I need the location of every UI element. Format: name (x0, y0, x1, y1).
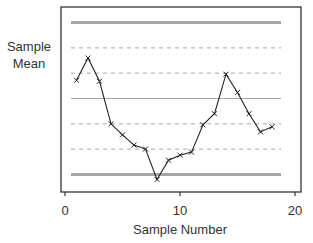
x-axis-label: Sample Number (133, 222, 227, 237)
x-marker-icon (132, 143, 137, 148)
x-marker-icon (120, 132, 125, 137)
sample-mean-line (77, 58, 273, 179)
control-chart (0, 0, 313, 243)
x-marker-icon (86, 56, 91, 61)
data-point-markers (74, 56, 275, 182)
x-marker-icon (166, 158, 171, 163)
x-tick-label-10: 10 (173, 203, 187, 218)
x-marker-icon (247, 111, 252, 116)
x-marker-icon (155, 177, 160, 182)
x-marker-icon (201, 122, 206, 127)
x-marker-icon (270, 124, 275, 129)
x-marker-icon (74, 78, 79, 83)
x-tick-label-0: 0 (61, 203, 68, 218)
x-tick-label-20: 20 (288, 203, 302, 218)
plot-frame (61, 7, 301, 192)
y-axis-label-line-1: Sample (4, 38, 54, 55)
x-marker-icon (235, 90, 240, 95)
control-lines (71, 23, 281, 175)
y-axis-label-line-2: Mean (4, 55, 54, 72)
x-marker-icon (258, 129, 263, 134)
y-axis-label: Sample Mean (4, 38, 54, 72)
